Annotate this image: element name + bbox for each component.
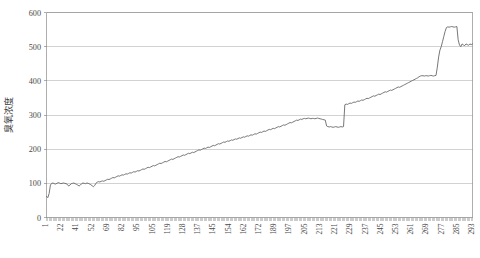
x-tick-label-22: 22 (56, 223, 65, 231)
y-tick-label-600: 600 (29, 9, 41, 18)
x-tick-label-162: 162 (239, 223, 248, 234)
y-axis-title: 臭氧浓度 (3, 97, 14, 133)
x-tick-label-213: 213 (315, 223, 324, 234)
x-tick-label-145: 145 (208, 223, 217, 234)
x-tick-label-269: 269 (421, 223, 430, 234)
x-axis-ticks (47, 218, 473, 221)
y-tick-label-0: 0 (37, 214, 41, 223)
x-tick-label-229: 229 (345, 223, 354, 234)
x-tick-label-105: 105 (148, 223, 157, 234)
x-tick-label-197: 197 (284, 223, 293, 234)
y-axis-ticks (44, 13, 47, 218)
y-tick-label-400: 400 (29, 77, 41, 86)
x-tick-label-245: 245 (376, 223, 385, 234)
y-axis-title-text: 臭氧浓度 (3, 97, 14, 133)
x-tick-label-95: 95 (132, 223, 141, 231)
x-tick-label-128: 128 (178, 223, 187, 234)
x-tick-label-69: 69 (102, 223, 111, 231)
x-tick-label-285: 285 (452, 223, 461, 234)
x-tick-label-154: 154 (224, 223, 233, 234)
x-tick-label-1: 1 (41, 223, 50, 227)
x-tick-label-221: 221 (330, 223, 339, 234)
x-tick-label-172: 172 (254, 223, 263, 234)
x-tick-label-261: 261 (406, 223, 415, 234)
ozone-concentration-chart: 0100200300400500600 12241526982951051191… (0, 0, 480, 258)
x-tick-label-189: 189 (269, 223, 278, 234)
y-tick-label-200: 200 (29, 145, 41, 154)
x-tick-label-119: 119 (163, 223, 172, 234)
x-tick-label-137: 137 (193, 223, 202, 234)
chart-canvas: 0100200300400500600 12241526982951051191… (0, 0, 480, 258)
data-series-line (47, 27, 473, 198)
x-tick-label-41: 41 (71, 223, 80, 231)
y-tick-label-100: 100 (29, 179, 41, 188)
x-tick-label-52: 52 (87, 223, 96, 231)
x-tick-label-82: 82 (117, 223, 126, 231)
x-axis-tick-labels: 1224152698295105119128137145154162172189… (41, 223, 476, 234)
x-tick-label-253: 253 (391, 223, 400, 234)
y-tick-label-500: 500 (29, 43, 41, 52)
x-tick-label-293: 293 (467, 223, 476, 234)
gridlines-group (47, 13, 473, 218)
y-tick-label-300: 300 (29, 111, 41, 120)
y-axis-tick-labels: 0100200300400500600 (29, 9, 41, 223)
series-path-ozone (47, 27, 473, 198)
x-tick-label-237: 237 (361, 223, 370, 234)
x-tick-label-205: 205 (300, 223, 309, 234)
x-tick-label-277: 277 (437, 223, 446, 234)
